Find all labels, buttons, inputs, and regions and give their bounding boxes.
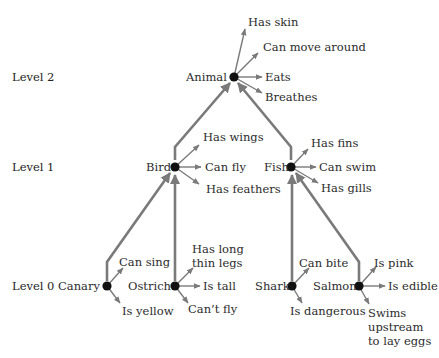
concept-animal: Animal	[186, 70, 227, 84]
concept-fish: Fish	[264, 160, 289, 174]
property-can-fly: Can fly	[205, 160, 246, 174]
node-canary	[102, 281, 111, 290]
property-can-move-around: Can move around	[263, 40, 366, 54]
property-has-feathers: Has feathers	[206, 182, 281, 196]
node-animal	[229, 72, 238, 81]
level-0-label: Level 0	[12, 279, 54, 293]
level-2-label: Level 2	[12, 70, 54, 84]
property-can-swim: Can swim	[319, 160, 376, 174]
property-is-yellow: Is yellow	[122, 304, 174, 318]
property-is-edible: Is edible	[388, 279, 438, 293]
property-can-bite: Can bite	[299, 256, 348, 270]
property-breathes: Breathes	[265, 90, 317, 104]
concept-shark: Shark	[255, 279, 290, 293]
edge-bird-animal	[175, 83, 230, 160]
property-has-skin: Has skin	[248, 15, 298, 29]
property-has-wings: Has wings	[203, 130, 264, 144]
property-has-gills: Has gills	[321, 181, 372, 195]
property-can-sing: Can sing	[119, 255, 170, 269]
property-has-long-thin-legs: Has long thin legs	[192, 242, 244, 270]
property-is-pink: Is pink	[374, 256, 414, 270]
concept-canary: Canary	[58, 279, 100, 293]
property-eats: Eats	[265, 70, 291, 84]
property-is-dangerous: Is dangerous	[290, 304, 366, 318]
node-ostrich	[170, 281, 179, 290]
concept-ostrich: Ostrich	[128, 279, 171, 293]
concept-bird: Bird	[146, 160, 171, 174]
property-swims-upstream-to-lay-eggs: Swims upstream to lay eggs	[368, 306, 431, 348]
property-has-fins: Has fins	[311, 136, 358, 150]
property-is-tall: Is tall	[203, 279, 236, 293]
level-1-label: Level 1	[12, 160, 54, 174]
node-bird	[170, 162, 179, 171]
concept-salmon: Salmon	[313, 279, 357, 293]
property-cant-fly: Can’t fly	[188, 302, 237, 316]
